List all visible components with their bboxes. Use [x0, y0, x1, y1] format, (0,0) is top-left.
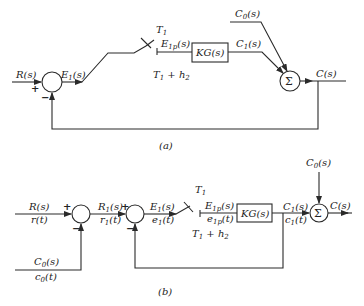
sigma-symbol-b: Σ: [314, 207, 322, 220]
summing-junction-b2: [126, 205, 144, 223]
label-c-s-b: C(s): [330, 200, 351, 211]
label-r1-t: r1(t): [100, 214, 121, 227]
diagram-a: R(s) + − E1(s) T1 E1p(s) T1 + h2 KG(s) C…: [12, 8, 346, 151]
sigma-symbol: Σ: [285, 75, 293, 88]
feedback-path-a: [52, 81, 318, 129]
summing-junction-b1: [72, 205, 90, 223]
minus-sign-1: −: [72, 223, 80, 234]
sampler-switch-arm: [146, 40, 154, 46]
diagram-b: R(s) r(t) + − C0(s) c0(t) R1(s) r1(t) + …: [15, 157, 352, 297]
sampler-arm-b: [176, 206, 190, 214]
label-hold-time: T1 + h2: [153, 69, 190, 82]
minus-sign-2: −: [126, 223, 134, 234]
label-e1-s: E1(s): [60, 69, 86, 82]
label-r-s-b: R(s): [28, 201, 50, 212]
minus-sign: −: [41, 92, 49, 103]
caption-a: (a): [159, 140, 173, 151]
label-t1-b: T1: [195, 184, 206, 197]
label-e1p-s: E1p(s): [160, 38, 190, 51]
label-e1-t-b: e1(t): [152, 214, 174, 227]
path-to-sampler: [82, 46, 146, 82]
c1-line: [228, 52, 283, 73]
label-c-s: C(s): [316, 68, 337, 79]
label-c0-s: C0(s): [235, 8, 260, 21]
label-c0-t-b: c0(t): [35, 271, 57, 284]
label-e1p-s-b: E1p(s): [204, 200, 234, 213]
label-r1-s: R1(s): [97, 201, 123, 214]
block-diagram-canvas: R(s) + − E1(s) T1 E1p(s) T1 + h2 KG(s) C…: [0, 0, 364, 306]
sampler-switch-icon-b: [184, 202, 193, 212]
summing-junction-a: [42, 72, 62, 92]
label-hold-time-b: T1 + h2: [192, 228, 229, 241]
label-t1: T1: [156, 24, 167, 37]
caption-b: (b): [158, 286, 172, 297]
label-c0-top: C0(s): [306, 157, 331, 170]
label-c1-s: C1(s): [236, 38, 261, 51]
label-e1p-t-b: e1p(t): [207, 213, 234, 226]
label-c1-t-b: c1(t): [285, 214, 307, 227]
plus-sign: +: [31, 83, 39, 94]
label-kg: KG(s): [195, 47, 224, 58]
label-r-t-b: r(t): [31, 214, 48, 225]
label-e1-s-b: E1(s): [149, 201, 175, 214]
label-r-s: R(s): [15, 69, 37, 80]
label-kg-b: KG(s): [240, 208, 269, 219]
label-c1-s-b: C1(s): [283, 201, 308, 214]
plus-sign-1: +: [63, 201, 71, 212]
label-c0-s-b: C0(s): [34, 256, 59, 269]
